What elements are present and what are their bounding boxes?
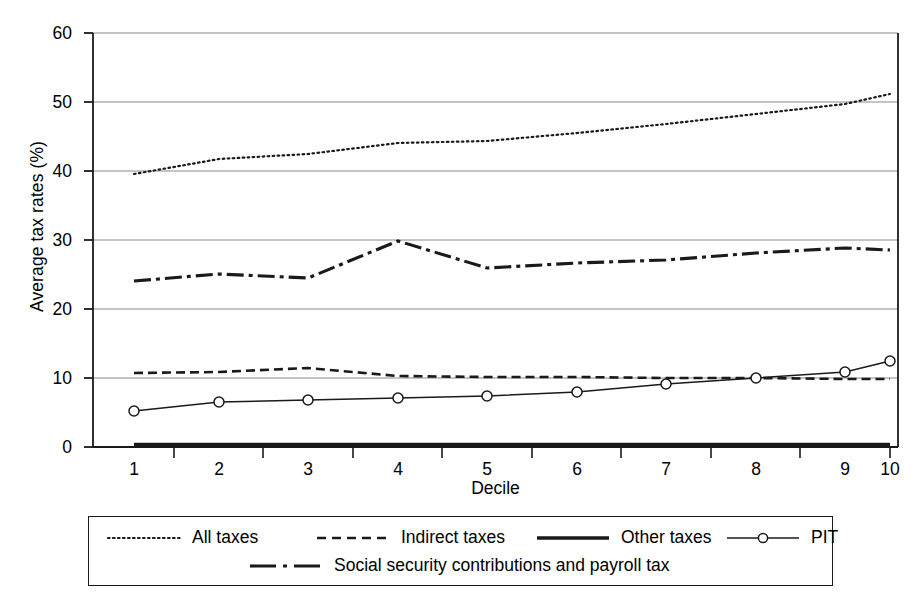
x-tick-label-8: 8 <box>733 459 779 480</box>
series-all-taxes <box>134 94 890 174</box>
x-tick-label-7: 7 <box>643 459 689 480</box>
plot-area: 60 50 40 30 20 10 0 1 2 3 4 5 6 7 8 9 10… <box>0 0 924 500</box>
pit-marker <box>129 406 139 416</box>
legend-row-1: All taxes Indirect taxes Other taxes <box>89 523 832 553</box>
legend-label-indirect-taxes: Indirect taxes <box>401 529 505 547</box>
pit-marker <box>303 395 313 405</box>
legend-swatch-dashed-icon <box>316 530 390 546</box>
x-tick-label-2: 2 <box>196 459 242 480</box>
legend-item-all-taxes: All taxes <box>107 529 258 547</box>
gridlines <box>93 33 898 378</box>
legend-item-social-security: Social security contributions and payrol… <box>249 557 670 575</box>
legend-swatch-marker-circle-icon <box>726 530 800 546</box>
series-social-security <box>134 241 890 281</box>
pit-marker <box>751 373 761 383</box>
legend-label-pit: PIT <box>811 529 838 547</box>
legend-item-pit: PIT <box>726 529 838 547</box>
y-tick-marks <box>84 33 93 447</box>
legend-row-2: Social security contributions and payrol… <box>89 551 832 581</box>
legend-label-other-taxes: Other taxes <box>621 529 711 547</box>
pit-marker <box>393 393 403 403</box>
series-pit-markers <box>129 356 895 416</box>
pit-marker <box>214 397 224 407</box>
x-tick-label-4: 4 <box>375 459 421 480</box>
pit-marker <box>482 391 492 401</box>
y-axis-title: Average tax rates (%) <box>27 27 48 427</box>
x-tick-marks <box>174 447 890 458</box>
legend-swatch-dotted-icon <box>107 530 181 546</box>
chart-canvas <box>0 0 924 500</box>
y-tick-label-0: 0 <box>26 437 72 458</box>
x-tick-label-9: 9 <box>822 459 868 480</box>
x-tick-label-3: 3 <box>285 459 331 480</box>
x-axis-title: Decile <box>93 478 898 499</box>
x-tick-label-10: 10 <box>867 459 913 480</box>
legend-label-social-security: Social security contributions and payrol… <box>334 557 670 575</box>
pit-marker <box>885 356 895 366</box>
legend-swatch-dash-dot-icon <box>249 558 323 574</box>
legend-item-other-taxes: Other taxes <box>536 529 711 547</box>
pit-marker <box>661 379 671 389</box>
pit-marker <box>840 367 850 377</box>
chart-figure: 60 50 40 30 20 10 0 1 2 3 4 5 6 7 8 9 10… <box>0 0 924 616</box>
legend-label-all-taxes: All taxes <box>192 529 258 547</box>
x-tick-label-1: 1 <box>111 459 157 480</box>
legend-swatch-solid-thick-icon <box>536 530 610 546</box>
chart-legend: All taxes Indirect taxes Other taxes <box>88 516 833 586</box>
pit-marker <box>572 387 582 397</box>
legend-item-indirect-taxes: Indirect taxes <box>316 529 505 547</box>
x-tick-label-5: 5 <box>464 459 510 480</box>
x-tick-label-6: 6 <box>554 459 600 480</box>
series-pit-line <box>134 361 890 411</box>
